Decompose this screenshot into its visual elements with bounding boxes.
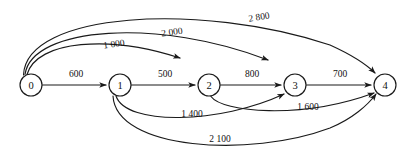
node-1[interactable]: 1 [109, 74, 131, 96]
graph-canvas: 600 500 800 700 1 000 2 000 2 800 1 400 … [0, 0, 414, 161]
edge-label-0-4: 2 800 [248, 10, 271, 23]
edge-label-1-2: 500 [158, 69, 173, 79]
edge-label-3-4: 700 [333, 69, 348, 79]
graph-figure: 600 500 800 700 1 000 2 000 2 800 1 400 … [0, 0, 414, 161]
node-0-label: 0 [28, 80, 33, 91]
edge-path-0-3 [25, 33, 268, 75]
node-4[interactable]: 4 [374, 74, 396, 96]
edge-path-0-4 [24, 19, 376, 75]
node-3-label: 3 [292, 80, 297, 91]
node-2[interactable]: 2 [198, 74, 220, 96]
node-3[interactable]: 3 [284, 74, 306, 96]
node-4-label: 4 [382, 80, 388, 91]
edge-label-0-1: 600 [69, 69, 84, 79]
edge-path-1-4 [113, 94, 376, 145]
edge-label-0-2: 1 000 [103, 38, 126, 51]
edge-label-2-3: 800 [245, 69, 260, 79]
edge-label-2-4: 1 600 [297, 102, 319, 112]
node-0[interactable]: 0 [20, 74, 42, 96]
edge-label-1-3: 1 400 [181, 109, 203, 119]
edge-label-1-4: 2 100 [209, 134, 231, 144]
node-2-label: 2 [206, 80, 211, 91]
node-1-label: 1 [117, 80, 122, 91]
